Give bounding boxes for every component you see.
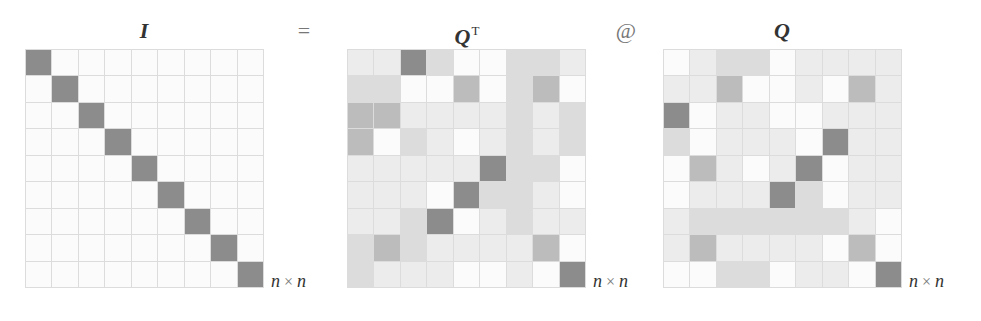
matrix-cell [374,235,400,261]
equals-sign: = [289,18,319,44]
matrix-cell [427,50,453,76]
matrix-cell [401,50,427,76]
matrix-cell [105,209,131,235]
matrix-cell [185,262,211,288]
matrix-cell [185,76,211,102]
matrix-cell [743,209,769,235]
matrix-cell [52,235,78,261]
q-matrix-title: Q [752,18,812,44]
matrix-cell [664,129,690,155]
matrix-cell [560,103,586,129]
matrix-cell [876,50,902,76]
matrix-cell [480,76,506,102]
matrix-cell [454,156,480,182]
matrix-cell [158,103,184,129]
matrix-cell [560,129,586,155]
matrix-cell [770,129,796,155]
matrix-cell [211,209,237,235]
matrix-cell [664,209,690,235]
matrix-cell [717,103,743,129]
matrix-cell [238,209,264,235]
matrix-cell [480,156,506,182]
matrix-cell [690,129,716,155]
matrix-cell [743,235,769,261]
matrix-cell [690,209,716,235]
matrix-cell [690,50,716,76]
matrix-cell [454,76,480,102]
matrix-cell [105,235,131,261]
matrix-cell [238,50,264,76]
matrix-cell [158,76,184,102]
matrix-cell [185,129,211,155]
matrix-cell [374,209,400,235]
matrix-cell [770,50,796,76]
matrix-cell [717,76,743,102]
matrix-cell [823,129,849,155]
matrix-cell [348,76,374,102]
matrix-cell [401,235,427,261]
matrix-cell [401,156,427,182]
matrix-cell [427,262,453,288]
matrix-cell [26,103,52,129]
matrix-cell [79,209,105,235]
matrix-cell [454,129,480,155]
matrix-cell [454,50,480,76]
matrix-cell [743,262,769,288]
matrix-cell [105,262,131,288]
dim-n: n [271,271,280,291]
matrix-cell [690,182,716,208]
matrix-cell [743,182,769,208]
matrix-cell [560,262,586,288]
matrix-cell [480,129,506,155]
matrix-cell [26,156,52,182]
matrix-cell [238,182,264,208]
matrix-cell [717,235,743,261]
matrix-cell [52,76,78,102]
matrix-cell [26,129,52,155]
matrix-cell [480,50,506,76]
matrix-cell [533,129,559,155]
dim-n: n [297,271,306,291]
matrix-cell [132,50,158,76]
matrix-cell [79,156,105,182]
matrix-cell [132,235,158,261]
matrix-cell [770,262,796,288]
matrix-cell [185,235,211,261]
matrix-cell [185,50,211,76]
matrix-cell [507,50,533,76]
matrix-cell [664,262,690,288]
matrix-cell [348,103,374,129]
matrix-cell [849,103,875,129]
matrix-cell [132,103,158,129]
matrix-cell [796,182,822,208]
matrix-cell [533,235,559,261]
matrix-cell [560,235,586,261]
matrix-cell [454,209,480,235]
matrix-cell [348,129,374,155]
matrix-cell [211,103,237,129]
matrix-cell [185,103,211,129]
matrix-cell [507,103,533,129]
matrix-cell [849,209,875,235]
matrix-cell [401,262,427,288]
matrix-cell [26,50,52,76]
matrix-cell [507,235,533,261]
matrix-cell [664,235,690,261]
equals-symbol: = [298,18,310,43]
matrix-cell [158,209,184,235]
identity-matrix-title: I [114,18,174,44]
matrix-cell [427,76,453,102]
matrix-cell [52,156,78,182]
matrix-cell [560,76,586,102]
matrix-cell [427,235,453,261]
matrix-cell [79,50,105,76]
transpose-superscript: T [471,23,479,38]
matrix-cell [823,182,849,208]
identity-dimension-label: n×n [271,270,306,293]
matrix-cell [105,129,131,155]
matrix-cell [690,262,716,288]
matmul-operator: @ [611,18,641,44]
matrix-cell [664,103,690,129]
matrix-cell [427,129,453,155]
matrix-cell [427,209,453,235]
